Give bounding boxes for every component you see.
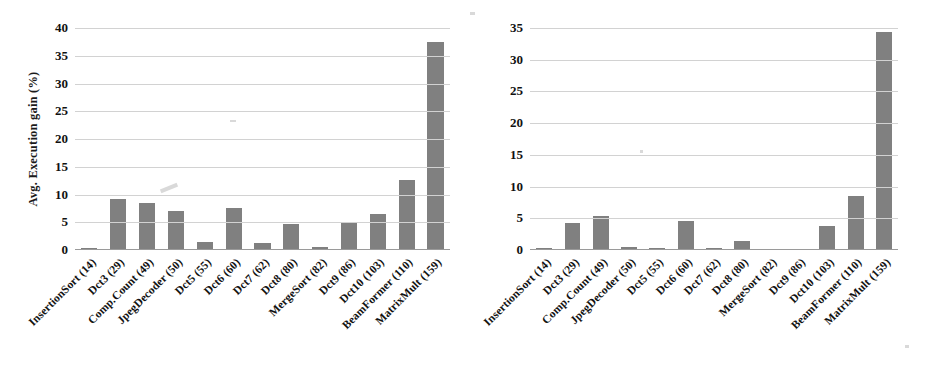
chart-panel-latency-gain: Avg. Latency gain (%) 05101520253035 Ins…	[469, 0, 938, 370]
gridline	[530, 91, 898, 92]
x-axis-line-left	[75, 249, 450, 251]
bar-slot	[558, 28, 586, 250]
x-axis-label-group-left: InsertionSort (14)Dct3 (29)Comp.Count (4…	[75, 252, 450, 367]
bar-slot	[728, 28, 756, 250]
scan-artifact	[470, 12, 475, 15]
gridline	[75, 195, 450, 196]
bar	[678, 221, 694, 250]
y-axis-tick-label: 15	[55, 159, 75, 175]
bar-slot	[870, 28, 898, 250]
chart-panel-execution-gain: Avg. Execution gain (%) 0510152025303540…	[0, 0, 469, 370]
bar	[283, 224, 299, 250]
gridline	[75, 167, 450, 168]
bar-slot	[615, 28, 643, 250]
gridline	[75, 139, 450, 140]
y-axis-tick-label: 15	[510, 147, 530, 163]
bar	[427, 42, 443, 250]
y-axis-tick-label: 40	[55, 20, 75, 36]
bar	[848, 196, 864, 250]
bar	[399, 180, 415, 250]
bar	[110, 199, 126, 250]
bar-slot	[785, 28, 813, 250]
y-axis-tick-label: 5	[62, 214, 76, 230]
bar-slot	[841, 28, 869, 250]
y-axis-tick-label: 5	[517, 210, 531, 226]
x-axis-label-group-right: InsertionSort (14)Dct3 (29)Comp.Count (4…	[530, 252, 898, 367]
figure-two-bar-charts: Avg. Execution gain (%) 0510152025303540…	[0, 0, 938, 370]
plot-area-right: 05101520253035	[530, 28, 898, 250]
gridline	[530, 123, 898, 124]
bar	[370, 214, 386, 250]
gridline	[530, 155, 898, 156]
gridline	[75, 84, 450, 85]
bar	[565, 223, 581, 250]
bar-slot	[700, 28, 728, 250]
y-axis-tick-label: 20	[510, 115, 530, 131]
gridline	[75, 222, 450, 223]
gridline	[530, 60, 898, 61]
bar	[139, 203, 155, 250]
y-axis-tick-label: 30	[510, 52, 530, 68]
y-axis-tick-label: 0	[517, 242, 531, 258]
plot-area-left: 0510152025303540	[75, 28, 450, 250]
gridline	[530, 187, 898, 188]
bar	[819, 226, 835, 250]
bar	[341, 222, 357, 250]
scan-artifact	[230, 120, 236, 122]
bar-group-right	[530, 28, 898, 250]
bar-slot	[672, 28, 700, 250]
bar	[226, 208, 242, 250]
x-axis-line-right	[530, 249, 898, 251]
y-axis-tick-label: 30	[55, 76, 75, 92]
gridline	[75, 28, 450, 29]
gridline	[530, 28, 898, 29]
y-axis-tick-label: 10	[55, 187, 75, 203]
bar-slot	[643, 28, 671, 250]
bar-slot	[757, 28, 785, 250]
y-axis-tick-label: 20	[55, 131, 75, 147]
scan-artifact	[640, 150, 643, 153]
gridline	[75, 111, 450, 112]
scan-artifact	[905, 345, 909, 348]
y-axis-tick-label: 10	[510, 179, 530, 195]
bar-slot	[587, 28, 615, 250]
y-axis-tick-label: 35	[510, 20, 530, 36]
bar-slot	[813, 28, 841, 250]
y-axis-tick-label: 35	[55, 48, 75, 64]
bar-slot	[530, 28, 558, 250]
gridline	[530, 218, 898, 219]
y-axis-tick-label: 25	[510, 83, 530, 99]
bar	[593, 216, 609, 250]
bar	[168, 211, 184, 250]
y-axis-tick-label: 25	[55, 103, 75, 119]
y-axis-tick-label: 0	[62, 242, 76, 258]
y-axis-title-left: Avg. Execution gain (%)	[26, 14, 41, 264]
y-axis-title-container-left: Avg. Execution gain (%)	[26, 14, 48, 264]
gridline	[75, 56, 450, 57]
